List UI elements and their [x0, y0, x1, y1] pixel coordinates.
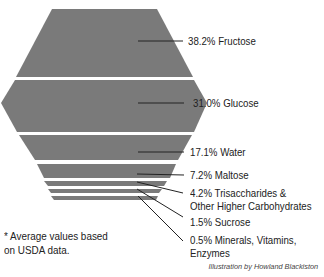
label-fructose: 38.2% Fructose	[188, 35, 256, 48]
label-sucrose: 1.5% Sucrose	[190, 216, 250, 229]
band-maltose	[37, 164, 176, 178]
label-maltose: 7.2% Maltose	[190, 169, 249, 182]
label-trisaccharides-line1: 4.2% Trisaccharides &	[190, 187, 312, 200]
label-trisaccharides-line2: Other Higher Carbohydrates	[190, 200, 312, 213]
footnote: * Average values based on USDA data.	[4, 229, 108, 257]
label-water: 17.1% Water	[190, 146, 246, 159]
leader-sucrose	[137, 189, 183, 217]
band-water	[19, 135, 192, 160]
label-minerals-line2: Enzymes	[190, 247, 296, 260]
label-trisaccharides: 4.2% Trisaccharides & Other Higher Carbo…	[190, 187, 312, 213]
label-minerals: 0.5% Minerals, Vitamins, Enzymes	[190, 234, 296, 260]
label-glucose: 31.0% Glucose	[193, 97, 259, 110]
label-minerals-line1: 0.5% Minerals, Vitamins,	[190, 234, 296, 247]
band-fructose	[16, 9, 193, 77]
footnote-line2: on USDA data.	[4, 243, 108, 257]
band-glucose	[1, 80, 207, 132]
illustration-credit: Illustration by Howland Blackiston	[208, 262, 318, 271]
band-sucrose	[48, 189, 162, 193]
footnote-line1: * Average values based	[4, 229, 108, 243]
